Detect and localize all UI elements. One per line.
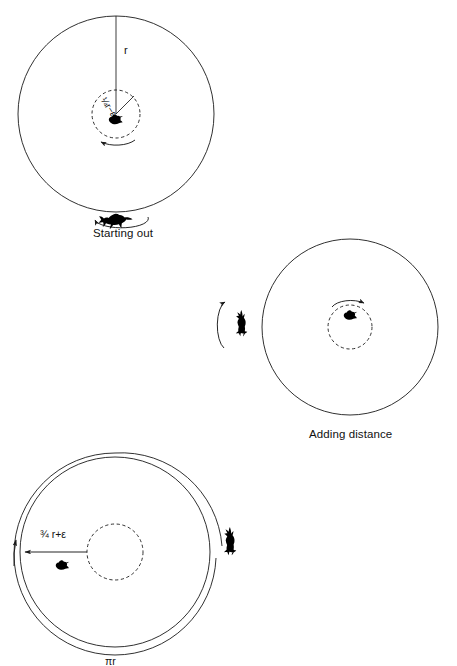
radius-label-r: r [124,44,128,56]
duck-icon-3 [56,560,69,569]
duck-icon-2 [344,310,357,319]
fox-icon-3 [224,527,236,555]
panel-2-caption: Adding distance [309,428,392,440]
inner-dashed-circle-3 [87,524,143,580]
distance-label: ¾ r+ε [40,528,66,540]
arc-length-label: πr [105,655,116,666]
duck-rotation-arrow-1 [101,140,135,145]
panel-3 [14,453,236,655]
panel-1 [18,16,214,229]
panel-1-caption: Starting out [93,227,153,239]
pursuit-diagram [0,0,457,666]
fox-run-arrow-2 [217,302,225,348]
pond-circle-2 [262,239,438,415]
fox-icon-2 [236,310,247,336]
fox-path-arc-3 [14,453,222,655]
duck-rotation-arrow-2 [332,300,364,307]
panel-2 [217,239,438,415]
